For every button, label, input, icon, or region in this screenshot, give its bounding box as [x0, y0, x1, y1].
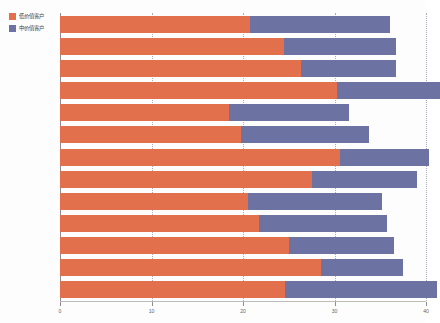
bar-row[interactable]	[60, 149, 429, 166]
x-tick-mark-40	[426, 302, 427, 306]
bar-segment-low-value[interactable]	[60, 149, 340, 166]
x-tick-mark-0	[60, 302, 61, 306]
bar-row[interactable]	[60, 193, 382, 210]
bar-segment-low-value[interactable]	[60, 38, 284, 55]
x-tick-mark-20	[243, 302, 244, 306]
legend-swatch-icon-mid-value	[9, 25, 16, 32]
bar-segment-mid-value[interactable]	[248, 193, 383, 210]
bar-segment-mid-value[interactable]	[250, 16, 390, 33]
bar-segment-low-value[interactable]	[60, 16, 250, 33]
bar-row[interactable]	[60, 38, 396, 55]
bar-row[interactable]	[60, 171, 417, 188]
bar-segment-mid-value[interactable]	[312, 171, 417, 188]
bar-segment-mid-value[interactable]	[321, 259, 403, 276]
bar-segment-low-value[interactable]	[60, 126, 241, 143]
legend-item-low-value[interactable]: 低价值客户	[9, 12, 57, 21]
x-tick-mark-30	[335, 302, 336, 306]
bar-segment-low-value[interactable]	[60, 193, 248, 210]
bar-row[interactable]	[60, 104, 349, 121]
legend: 低价值客户 中价值客户	[9, 12, 57, 36]
bar-segment-mid-value[interactable]	[301, 60, 396, 77]
bar-row[interactable]	[60, 237, 394, 254]
x-tick-label-40: 40	[423, 308, 429, 314]
bar-segment-low-value[interactable]	[60, 259, 321, 276]
bar-segment-mid-value[interactable]	[337, 82, 439, 99]
bar-segment-low-value[interactable]	[60, 104, 229, 121]
legend-label-mid-value: 中价值客户	[19, 24, 44, 33]
bar-segment-mid-value[interactable]	[285, 281, 437, 298]
plot-area: 010203040	[60, 13, 426, 301]
x-tick-mark-10	[152, 302, 153, 306]
bar-segment-mid-value[interactable]	[284, 38, 396, 55]
bar-segment-mid-value[interactable]	[259, 215, 386, 232]
bar-row[interactable]	[60, 259, 403, 276]
bar-segment-low-value[interactable]	[60, 60, 301, 77]
x-tick-label-10: 10	[149, 308, 155, 314]
bar-row[interactable]	[60, 60, 396, 77]
bar-row[interactable]	[60, 16, 390, 33]
bar-segment-mid-value[interactable]	[289, 237, 394, 254]
bar-segment-low-value[interactable]	[60, 215, 259, 232]
x-tick-label-30: 30	[332, 308, 338, 314]
bar-row[interactable]	[60, 82, 440, 99]
legend-swatch-icon-low-value	[9, 13, 16, 20]
bar-segment-low-value[interactable]	[60, 82, 337, 99]
legend-label-low-value: 低价值客户	[19, 12, 44, 21]
bar-segment-low-value[interactable]	[60, 171, 312, 188]
legend-item-mid-value[interactable]: 中价值客户	[9, 24, 57, 33]
bar-segment-low-value[interactable]	[60, 281, 285, 298]
bar-segment-mid-value[interactable]	[241, 126, 369, 143]
bar-row[interactable]	[60, 215, 387, 232]
bar-series-group	[60, 13, 426, 301]
x-tick-label-20: 20	[240, 308, 246, 314]
bar-segment-mid-value[interactable]	[340, 149, 429, 166]
bar-segment-low-value[interactable]	[60, 237, 289, 254]
bar-segment-mid-value[interactable]	[229, 104, 349, 121]
x-tick-label-0: 0	[59, 308, 62, 314]
bar-row[interactable]	[60, 281, 437, 298]
bar-row[interactable]	[60, 126, 369, 143]
